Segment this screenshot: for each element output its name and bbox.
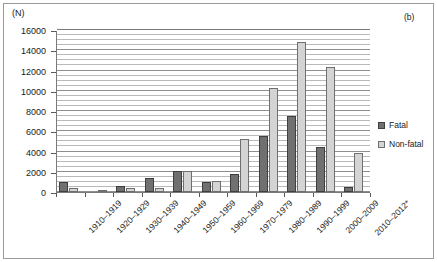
y-axis-unit-label: (N) — [12, 8, 25, 18]
gridline — [57, 29, 370, 30]
panel-letter-label: (b) — [404, 12, 414, 22]
bar-nonfatal — [98, 190, 107, 192]
y-axis: 0200040006000800010000120001400016000 — [0, 31, 56, 194]
bar-fatal — [287, 116, 296, 192]
bar-group — [257, 31, 286, 192]
bar-group — [57, 31, 86, 192]
bar-nonfatal — [326, 67, 335, 192]
plot-area — [56, 31, 370, 193]
y-axis-tick-label: 10000 — [21, 87, 46, 97]
bar-nonfatal — [69, 188, 78, 192]
bar-group — [86, 31, 115, 192]
bar-fatal — [344, 187, 353, 192]
bar-fatal — [59, 182, 68, 192]
bar-nonfatal — [212, 181, 221, 192]
bar-group — [285, 31, 314, 192]
bar-fatal — [259, 136, 268, 192]
y-axis-tick-label: 4000 — [26, 148, 46, 158]
bar-group — [200, 31, 229, 192]
chart-legend: FatalNon-fatal — [378, 120, 434, 158]
bar-nonfatal — [354, 153, 363, 192]
y-axis-tick-label: 14000 — [21, 46, 46, 56]
bar-group — [314, 31, 343, 192]
bar-group — [342, 31, 371, 192]
y-axis-tick-label: 6000 — [26, 127, 46, 137]
bar-fatal — [116, 186, 125, 192]
bar-fatal — [145, 178, 154, 192]
bar-group — [171, 31, 200, 192]
bar-fatal — [316, 147, 325, 192]
legend-item: Fatal — [378, 120, 434, 130]
bar-nonfatal — [297, 42, 306, 192]
bar-nonfatal — [155, 188, 164, 192]
legend-label: Non-fatal — [389, 139, 424, 149]
y-axis-tick-label: 2000 — [26, 168, 46, 178]
bar-nonfatal — [126, 188, 135, 192]
bar-group — [228, 31, 257, 192]
legend-item: Non-fatal — [378, 139, 434, 149]
legend-swatch-nonfatal — [378, 141, 385, 148]
bar-fatal — [202, 182, 211, 192]
legend-label: Fatal — [389, 120, 408, 130]
bar-group — [143, 31, 172, 192]
legend-swatch-fatal — [378, 122, 385, 129]
bar-nonfatal — [183, 171, 192, 192]
y-axis-tick-label: 12000 — [21, 67, 46, 77]
y-axis-tick-label: 8000 — [26, 107, 46, 117]
bar-series-container — [57, 31, 370, 192]
bar-nonfatal — [269, 88, 278, 192]
bar-fatal — [173, 171, 182, 192]
bar-group — [114, 31, 143, 192]
x-axis-labels: 1910–19191920–19291930–19391940–19491950… — [0, 196, 437, 258]
bar-nonfatal — [240, 139, 249, 192]
figure-panel-b: (N) (b) 02000400060008000100001200014000… — [0, 0, 437, 262]
bar-fatal — [230, 174, 239, 192]
y-axis-tick-label: 16000 — [21, 26, 46, 36]
